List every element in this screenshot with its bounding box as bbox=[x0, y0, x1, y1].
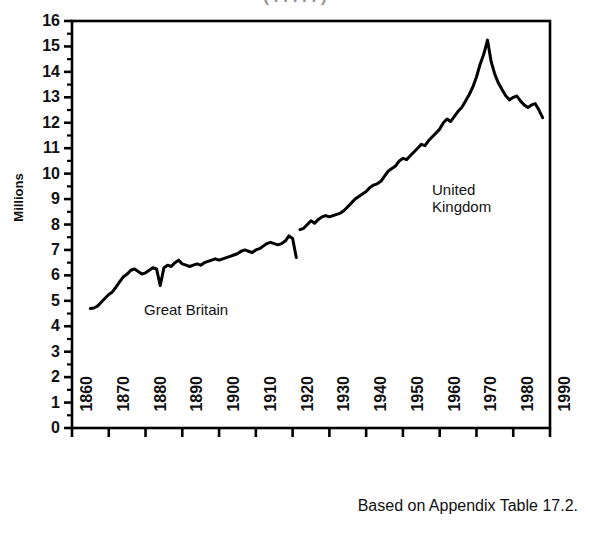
x-tick-label-1910: 1910 bbox=[263, 376, 279, 436]
series-annotation-great-britain: Great Britain bbox=[144, 301, 228, 318]
chart-figure: ( . . . . . ) Millions 01234567891011121… bbox=[0, 0, 590, 549]
x-tick-label-1920: 1920 bbox=[300, 376, 316, 436]
x-tick-label-1980: 1980 bbox=[520, 376, 536, 436]
series-annotation-united-kingdom: United Kingdom bbox=[432, 181, 491, 216]
x-tick-label-1900: 1900 bbox=[226, 376, 242, 436]
x-tick-label-1950: 1950 bbox=[410, 376, 426, 436]
x-tick-label-1940: 1940 bbox=[373, 376, 389, 436]
x-tick-label-1860: 1860 bbox=[79, 376, 95, 436]
x-axis-tick-labels: 1860187018801890190019101920193019401950… bbox=[0, 0, 590, 549]
series-annotation-great-britain-label: Great Britain bbox=[144, 301, 228, 318]
series-annotation-united-kingdom-line1: United bbox=[432, 181, 491, 198]
series-annotation-united-kingdom-line2: Kingdom bbox=[432, 198, 491, 215]
x-tick-label-1960: 1960 bbox=[447, 376, 463, 436]
chart-caption: Based on Appendix Table 17.2. bbox=[0, 497, 578, 515]
x-tick-label-1970: 1970 bbox=[483, 376, 499, 436]
x-tick-label-1870: 1870 bbox=[116, 376, 132, 436]
x-tick-label-1990: 1990 bbox=[557, 376, 573, 436]
x-tick-label-1930: 1930 bbox=[336, 376, 352, 436]
x-tick-label-1880: 1880 bbox=[153, 376, 169, 436]
x-tick-label-1890: 1890 bbox=[189, 376, 205, 436]
